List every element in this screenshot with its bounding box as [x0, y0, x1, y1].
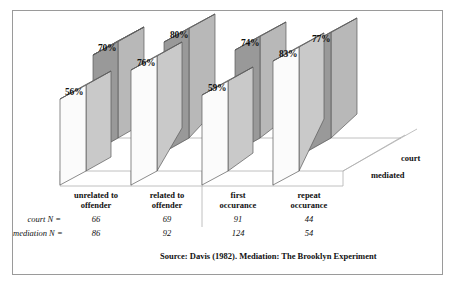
table-cell-mediation-first: 124	[203, 228, 273, 238]
value-label-mediated-first: 59%	[208, 83, 226, 93]
category-label-line1: firstoccurance	[203, 190, 273, 210]
chart-figure: 56% 76% 59% 83% 70% 80% 74% 77% unrelate…	[12, 10, 443, 275]
category-label-line1: related tooffender	[132, 190, 202, 210]
table-row-label-mediation-n: mediation N =	[13, 228, 61, 238]
category-label-unrelated-to-offender: unrelated tooffender	[61, 190, 131, 210]
category-label-line1: repeatoccurance	[274, 190, 344, 210]
depth-axis-court	[401, 129, 417, 138]
legend-label-court: court	[401, 153, 420, 163]
source-note: Source: Davis (1982). Mediation: The Bro…	[160, 251, 377, 261]
table-cell-court-related: 69	[132, 214, 202, 224]
category-label-related-to-offender: related tooffender	[132, 190, 202, 210]
category-label-repeat-occurance: repeatoccurance	[274, 190, 344, 210]
table-cell-mediation-unrelated: 86	[61, 228, 131, 238]
table-row-label-court-n: court N =	[13, 214, 61, 224]
category-label-line1: unrelated tooffender	[61, 190, 131, 210]
value-label-court-unrelated: 70%	[98, 43, 116, 53]
table-cell-court-repeat: 44	[274, 214, 344, 224]
value-label-court-repeat: 77%	[312, 34, 330, 44]
table-cell-court-first: 91	[203, 214, 273, 224]
table-cell-mediation-repeat: 54	[274, 228, 344, 238]
value-label-mediated-repeat: 83%	[279, 49, 297, 59]
table-cell-mediation-related: 92	[132, 228, 202, 238]
value-label-court-related: 80%	[170, 30, 188, 40]
legend-label-mediated: mediated	[371, 170, 405, 180]
category-label-first-occurance: firstoccurance	[203, 190, 273, 210]
value-label-mediated-unrelated: 56%	[65, 87, 83, 97]
value-label-court-first: 74%	[241, 38, 259, 48]
table-cell-court-unrelated: 66	[61, 214, 131, 224]
value-label-mediated-related: 76%	[137, 58, 155, 68]
